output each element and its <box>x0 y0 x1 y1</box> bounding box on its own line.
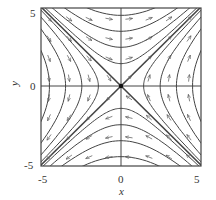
arrow-icon <box>105 18 112 19</box>
x-axis-label: x <box>118 185 124 197</box>
arrow-icon <box>146 56 151 61</box>
arrow-icon <box>86 156 93 159</box>
phase-portrait-chart: 5 0 -5 -5 0 5 x y <box>0 0 216 200</box>
trajectory-curve <box>0 0 98 200</box>
arrow-icon <box>188 94 189 101</box>
arrow-icon <box>166 36 171 41</box>
arrow-icon <box>146 156 153 159</box>
arrow-icon <box>189 75 190 82</box>
arrow-icon <box>86 17 93 20</box>
arrow-icon <box>88 95 91 102</box>
x-tick-min: -5 <box>38 173 48 185</box>
x-tick-max: 5 <box>194 173 200 185</box>
y-tick-zero: 0 <box>30 80 36 92</box>
arrow-icon <box>106 38 113 40</box>
y-axis-label: y <box>8 81 20 87</box>
x-tick-zero: 0 <box>118 173 124 185</box>
y-tick-min: -5 <box>24 159 34 171</box>
arrow-icon <box>88 75 90 82</box>
arrow-icon <box>66 155 72 159</box>
trajectory-curve <box>144 0 216 200</box>
arrow-icon <box>166 17 172 21</box>
arrow-icon <box>148 75 150 82</box>
arrow-icon <box>125 38 132 39</box>
arrow-icon <box>146 136 152 139</box>
arrow-icon <box>146 37 152 41</box>
arrow-icon <box>66 135 71 140</box>
arrow-icon <box>105 137 112 139</box>
trajectory-curve <box>160 0 216 200</box>
arrow-icon <box>187 36 191 42</box>
arrow-icon <box>146 17 153 20</box>
arrow-icon <box>188 55 191 62</box>
arrow-icon <box>126 76 131 81</box>
arrow-icon <box>67 55 70 61</box>
arrow-icon <box>168 94 170 101</box>
arrow-icon <box>49 75 50 82</box>
arrow-icon <box>106 116 113 118</box>
arrow-icon <box>126 117 133 119</box>
arrow-icon <box>187 114 190 120</box>
arrow-icon <box>48 114 51 120</box>
arrow-icon <box>125 18 132 19</box>
trajectory-curve <box>193 0 216 200</box>
arrow-icon <box>167 55 171 61</box>
arrow-icon <box>47 134 51 140</box>
y-tick-max: 5 <box>30 7 36 19</box>
arrow-icon <box>125 137 132 138</box>
arrow-icon <box>68 94 70 101</box>
arrow-icon <box>125 157 132 158</box>
arrow-icon <box>68 75 69 82</box>
arrow-icon <box>48 55 51 62</box>
arrow-icon <box>86 115 91 120</box>
equilibrium-point <box>119 84 123 88</box>
arrow-icon <box>106 95 111 100</box>
arrow-icon <box>168 75 169 82</box>
trajectory-curve <box>0 108 216 200</box>
arrow-icon <box>126 57 133 59</box>
